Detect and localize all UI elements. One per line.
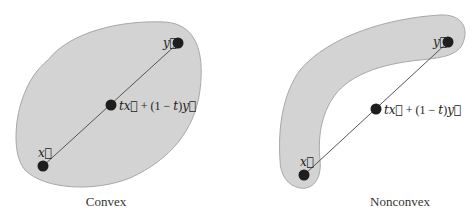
convex-point-x [38, 161, 49, 172]
convex-figure: y⃗ x⃗ tx⃗ + (1 − t)y⃗ Convex [16, 22, 201, 209]
convex-label-combination: tx⃗ + (1 − t)y⃗ [119, 99, 196, 113]
convex-label-x: x⃗ [38, 146, 52, 160]
convex-point-mid [106, 100, 117, 111]
nonconvex-caption: Nonconvex [370, 194, 430, 209]
nonconvex-label-y: y⃗ [432, 35, 447, 49]
convex-label-y: y⃗ [162, 36, 177, 50]
convexity-diagram: y⃗ x⃗ tx⃗ + (1 − t)y⃗ Convex y⃗ x⃗ tx⃗ +… [0, 0, 476, 219]
convex-caption: Convex [86, 194, 127, 209]
nonconvex-label-combination: tx⃗ + (1 − t)y⃗ [384, 103, 461, 117]
nonconvex-point-x [299, 170, 310, 181]
nonconvex-label-x: x⃗ [300, 155, 314, 169]
nonconvex-point-mid [371, 104, 382, 115]
nonconvex-figure: y⃗ x⃗ tx⃗ + (1 − t)y⃗ Nonconvex [280, 15, 466, 209]
